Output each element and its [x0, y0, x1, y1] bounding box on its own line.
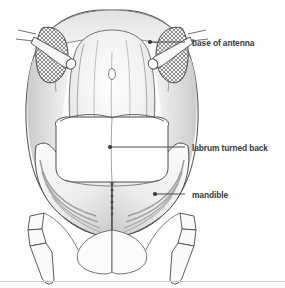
callout-label-base-of-antenna: base of antenna — [192, 39, 254, 47]
antenna-seta-left-upper — [18, 30, 36, 34]
palp-right-segment-3 — [170, 243, 194, 284]
palp-left-segment-1 — [28, 213, 44, 230]
leader-dot-labrum-turned-back — [108, 145, 112, 149]
palp-right-segment-1 — [180, 213, 196, 230]
leader-dot-mandible — [153, 192, 157, 196]
callout-label-mandible: mandible — [192, 191, 228, 199]
antenna-seta-right-upper — [188, 30, 206, 34]
palp-left-segment-3 — [30, 243, 54, 284]
antenna-seta-left-lower — [16, 39, 33, 41]
submentum-left — [77, 230, 112, 274]
palp-right — [146, 213, 196, 284]
submentum-right — [112, 230, 147, 274]
median-ocellus — [109, 68, 116, 79]
labrum-plate — [55, 117, 168, 182]
palp-left — [28, 213, 78, 284]
leader-dot-base-of-antenna — [148, 40, 152, 44]
callout-label-labrum-turned-back: labrum turned back — [192, 144, 268, 152]
labrum — [55, 114, 168, 186]
figure-container: base of antenna labrum turned back mandi… — [0, 0, 285, 288]
submentum-lobes — [77, 230, 146, 274]
